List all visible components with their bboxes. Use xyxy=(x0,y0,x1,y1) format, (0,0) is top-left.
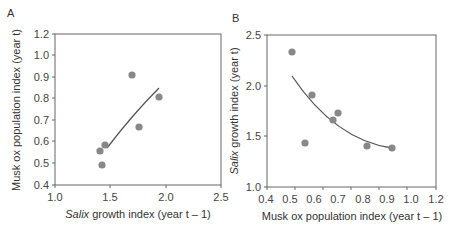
data-point xyxy=(288,48,295,55)
y-tick-label: 2.0 xyxy=(246,80,261,92)
data-point xyxy=(301,139,308,146)
x-tick-label: 1.2 xyxy=(428,193,443,205)
panel-b-x-axis-title: Musk ox population index (year t – 1) xyxy=(262,210,442,222)
data-point xyxy=(96,147,103,154)
data-point xyxy=(308,91,315,98)
data-point xyxy=(128,71,135,78)
x-tick-label: 0.9 xyxy=(379,193,394,205)
panel-a-fit-line xyxy=(107,88,159,148)
panel-a-label: A xyxy=(7,7,15,19)
y-tick-label: 1.0 xyxy=(246,181,261,193)
panel-a: A 1.2 1.0 0.9 0.8 0.7 0.6 0.5 0.4 xyxy=(7,7,229,220)
data-point xyxy=(363,142,370,149)
panel-a-x-axis-title: Salix growth index (year t – 1) xyxy=(65,208,211,220)
x-tick-label: 0.5 xyxy=(282,193,297,205)
x-tick-label: 0.6 xyxy=(306,193,321,205)
data-point xyxy=(329,116,336,123)
y-tick-label: 0.9 xyxy=(34,71,49,83)
panel-b-points xyxy=(288,48,395,151)
y-tick-label: 2.5 xyxy=(246,29,261,41)
y-tick-label: 0.6 xyxy=(34,135,49,147)
y-tick-label: 0.4 xyxy=(34,179,49,191)
data-point xyxy=(98,161,105,168)
data-point xyxy=(155,93,162,100)
x-tick-label: 0.8 xyxy=(355,193,370,205)
data-point xyxy=(334,109,341,116)
x-tick-label: 2.5 xyxy=(213,191,228,203)
y-tick-label: 0.5 xyxy=(34,157,49,169)
x-tick-label: 1.0 xyxy=(47,191,62,203)
data-point xyxy=(135,123,142,130)
panel-b-y-axis-title: Salix growth index (year t) xyxy=(228,47,240,174)
y-tick-label: 1.5 xyxy=(246,130,261,142)
figure: A 1.2 1.0 0.9 0.8 0.7 0.6 0.5 0.4 xyxy=(0,0,458,235)
y-tick-label: 0.8 xyxy=(34,92,49,104)
panel-b-y-tick-labels: 2.5 2.0 1.5 1.0 xyxy=(246,29,261,193)
data-point xyxy=(388,144,395,151)
x-tick-label: 1.0 xyxy=(403,193,418,205)
panel-b-x-tick-labels: 0.4 0.5 0.6 0.7 0.8 0.9 1.0 1.2 xyxy=(258,193,443,205)
x-tick-label: 1.5 xyxy=(102,191,117,203)
x-tick-label: 0.4 xyxy=(258,193,273,205)
y-tick-label: 1.0 xyxy=(34,49,49,61)
panel-b-plot-area xyxy=(267,35,436,187)
panel-a-y-axis-title: Musk ox population index (year t) xyxy=(10,29,22,191)
panel-b-fit-line xyxy=(292,76,392,148)
panel-b-label: B xyxy=(232,12,239,24)
x-tick-label: 2.0 xyxy=(158,191,173,203)
x-tick-label: 0.7 xyxy=(330,193,345,205)
data-point xyxy=(101,141,108,148)
y-tick-label: 0.7 xyxy=(34,114,49,126)
panel-b: B 2.5 2.0 1.5 1.0 0.4 0.5 0.6 0.7 xyxy=(228,12,444,222)
panel-a-y-tick-labels: 1.2 1.0 0.9 0.8 0.7 0.6 0.5 0.4 xyxy=(34,28,49,191)
panel-a-x-tick-labels: 1.0 1.5 2.0 2.5 xyxy=(47,191,228,203)
y-tick-label: 1.2 xyxy=(34,28,49,40)
